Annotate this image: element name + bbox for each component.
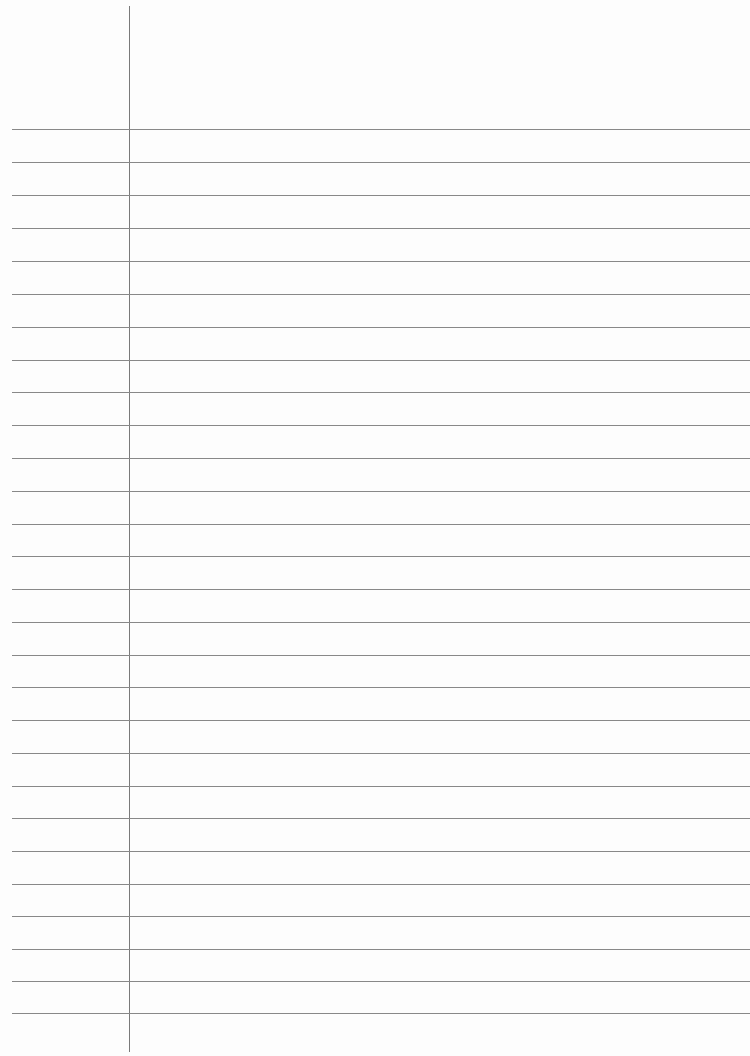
ruled-line bbox=[12, 786, 750, 787]
ruled-line bbox=[12, 491, 750, 492]
ruled-line bbox=[12, 162, 750, 163]
ruled-line bbox=[12, 392, 750, 393]
ruled-line bbox=[12, 129, 750, 130]
ruled-line bbox=[12, 228, 750, 229]
ruled-line bbox=[12, 884, 750, 885]
ruled-line bbox=[12, 261, 750, 262]
ruled-line bbox=[12, 753, 750, 754]
ruled-line bbox=[12, 425, 750, 426]
ruled-line bbox=[12, 458, 750, 459]
ruled-line bbox=[12, 556, 750, 557]
ruled-line bbox=[12, 622, 750, 623]
ruled-line bbox=[12, 294, 750, 295]
ruled-line bbox=[12, 524, 750, 525]
ruled-line bbox=[12, 360, 750, 361]
ruled-line bbox=[12, 1013, 750, 1014]
lined-paper-sheet bbox=[0, 0, 750, 1056]
ruled-line bbox=[12, 195, 750, 196]
ruled-line bbox=[12, 949, 750, 950]
ruled-line bbox=[12, 327, 750, 328]
ruled-line bbox=[12, 687, 750, 688]
ruled-line bbox=[12, 851, 750, 852]
ruled-line bbox=[12, 589, 750, 590]
ruled-line bbox=[12, 981, 750, 982]
ruled-line bbox=[12, 916, 750, 917]
ruled-line bbox=[12, 655, 750, 656]
ruled-line bbox=[12, 720, 750, 721]
ruled-line bbox=[12, 818, 750, 819]
